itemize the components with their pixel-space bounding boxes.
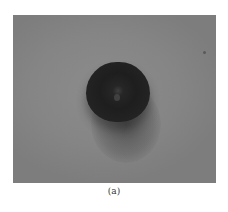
sample-photo (13, 15, 216, 183)
figure-caption: (a) (0, 186, 228, 196)
round-sample-object (86, 62, 150, 122)
sample-center-hole (114, 94, 120, 101)
surface-speck (203, 51, 206, 54)
